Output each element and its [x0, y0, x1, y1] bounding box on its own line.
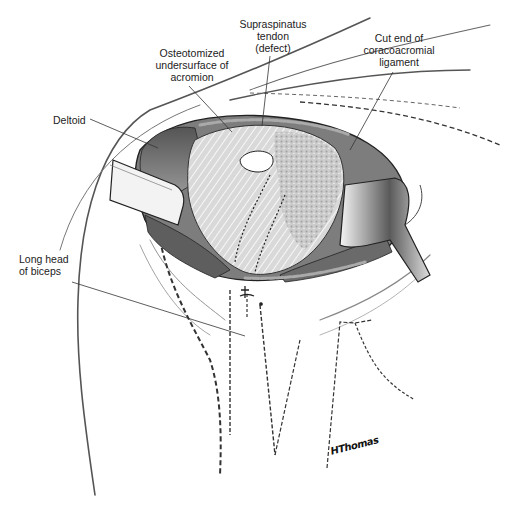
label-deltoid: Deltoid: [53, 114, 86, 126]
surgical-illustration: Supraspinatus tendon (defect) Osteotomiz…: [0, 0, 514, 514]
illustration-artwork: [0, 0, 514, 514]
label-osteotomized-acromion: Osteotomized undersurface of acromion: [150, 47, 234, 83]
label-long-head-biceps: Long head of biceps: [19, 253, 69, 277]
label-supraspinatus-tendon: Supraspinatus tendon (defect): [237, 18, 309, 54]
suture-knot: [240, 286, 262, 305]
label-coracoacromial-ligament: Cut end of coracoacromial ligament: [357, 32, 441, 68]
